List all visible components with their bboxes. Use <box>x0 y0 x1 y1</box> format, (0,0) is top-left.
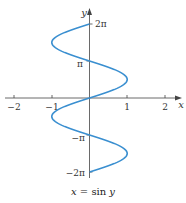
y-axis-arrow-icon <box>87 8 92 15</box>
y-tick-label: π <box>77 59 83 69</box>
x-tick-label: 2 <box>162 102 168 112</box>
y-tick-label: −π <box>72 133 86 143</box>
x-axis-label: x <box>178 99 184 110</box>
y-tick-label: 2π <box>95 19 107 29</box>
y-axis-label: y <box>80 7 87 18</box>
x-tick-label: 1 <box>124 102 130 112</box>
y-tick-label: −2π <box>66 168 85 178</box>
figure-caption: x = sin y <box>0 186 186 197</box>
caption-rhs: y <box>109 186 115 197</box>
caption-eq: = sin <box>77 186 110 197</box>
x-tick-label: −2 <box>7 102 20 112</box>
chart-canvas: −2 −1 1 2 x 2π π −π −2π y <box>0 0 186 203</box>
